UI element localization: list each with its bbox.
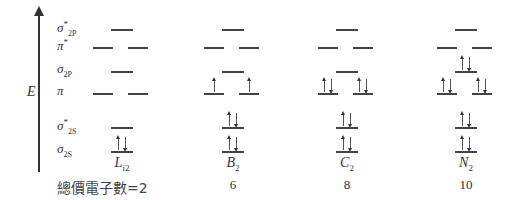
spin-up-arrow-icon (462, 114, 463, 126)
energy-level-pi-a (318, 93, 338, 95)
spin-up-arrow-icon (343, 138, 344, 150)
energy-level-pi_star-a (93, 47, 113, 49)
spin-up-arrow-icon (343, 114, 344, 126)
energy-level-pi-a (93, 93, 113, 95)
spin-down-arrow-icon (236, 137, 237, 149)
energy-level-pi-a (437, 93, 457, 95)
spin-down-arrow-icon (125, 137, 126, 149)
spin-up-arrow-icon (229, 138, 230, 150)
molecule-label: N2 (446, 155, 486, 173)
energy-level-sigma_star_2p (222, 29, 244, 31)
energy-level-pi_star-a (437, 47, 457, 49)
orbital-label-sigma-2s: σ2S (57, 142, 72, 159)
energy-level-pi_star-a (204, 47, 224, 49)
spin-down-arrow-icon (331, 79, 332, 91)
spin-down-arrow-icon (469, 113, 470, 125)
orbital-label-pi-star: π* (57, 38, 68, 52)
energy-level-pi-b (353, 93, 373, 95)
energy-level-sigma_2p (336, 71, 358, 73)
valence-count: 6 (213, 177, 253, 193)
orbital-label-sigma-star-2p: σ*2P (57, 20, 76, 38)
energy-level-sigma_star_2s (111, 127, 133, 129)
spin-up-arrow-icon (462, 138, 463, 150)
spin-up-arrow-icon (324, 80, 325, 92)
orbital-label-sigma-star-2s: σ*2S (57, 118, 76, 136)
molecule-label: C2 (327, 155, 367, 173)
energy-axis-arrow-icon (34, 6, 44, 16)
energy-level-pi-b (472, 93, 492, 95)
spin-up-arrow-icon (478, 80, 479, 92)
valence-electron-label: 總價電子數=2 (57, 177, 148, 197)
energy-level-sigma_2s (455, 151, 477, 153)
valence-count: 8 (327, 177, 367, 193)
spin-up-arrow-icon (118, 138, 119, 150)
energy-level-sigma_2s (336, 151, 358, 153)
spin-down-arrow-icon (450, 79, 451, 91)
spin-down-arrow-icon (350, 137, 351, 149)
energy-level-sigma_2s (222, 151, 244, 153)
spin-up-arrow-icon (229, 114, 230, 126)
orbital-label-pi: π (57, 84, 64, 97)
energy-level-pi-a (204, 93, 224, 95)
energy-level-pi_star-b (353, 47, 373, 49)
spin-up-arrow-icon (249, 80, 250, 92)
energy-level-sigma_star_2s (222, 127, 244, 129)
spin-up-arrow-icon (214, 80, 215, 92)
spin-down-arrow-icon (350, 113, 351, 125)
energy-level-pi_star-b (128, 47, 148, 49)
energy-level-sigma_2p (111, 71, 133, 73)
energy-level-pi_star-b (472, 47, 492, 49)
spin-up-arrow-icon (443, 80, 444, 92)
molecule-label: B2 (213, 155, 253, 173)
spin-down-arrow-icon (236, 113, 237, 125)
energy-level-sigma_2p (222, 71, 244, 73)
spin-up-arrow-icon (462, 58, 463, 70)
energy-level-sigma_star_2s (336, 127, 358, 129)
spin-down-arrow-icon (469, 57, 470, 69)
molecule-label: Li2 (102, 155, 142, 173)
orbital-label-sigma-2p: σ2P (57, 62, 72, 79)
energy-level-sigma_star_2p (336, 29, 358, 31)
energy-level-sigma_star_2p (111, 29, 133, 31)
energy-level-sigma_star_2p (455, 29, 477, 31)
energy-level-sigma_2s (111, 151, 133, 153)
energy-axis (38, 14, 40, 172)
energy-level-pi-b (128, 93, 148, 95)
energy-level-pi_star-a (318, 47, 338, 49)
energy-level-sigma_star_2s (455, 127, 477, 129)
energy-axis-label: E (27, 84, 36, 100)
energy-level-sigma_2p (455, 71, 477, 73)
energy-level-pi-b (239, 93, 259, 95)
spin-up-arrow-icon (359, 80, 360, 92)
spin-down-arrow-icon (485, 79, 486, 91)
valence-count: 10 (446, 177, 486, 193)
spin-down-arrow-icon (366, 79, 367, 91)
spin-down-arrow-icon (469, 137, 470, 149)
energy-level-pi_star-b (239, 47, 259, 49)
